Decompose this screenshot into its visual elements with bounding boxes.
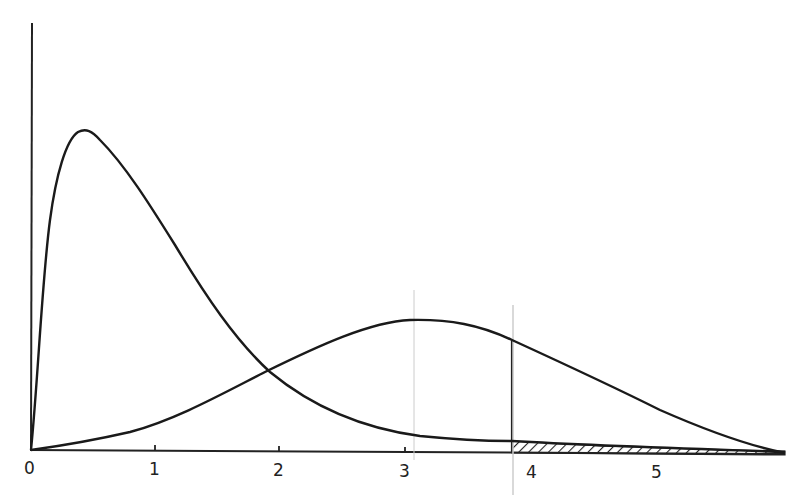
x-tick-label-5: 5	[651, 462, 662, 482]
x-tick-label-3: 3	[399, 461, 410, 481]
x-tick-label-0: 0	[24, 458, 35, 478]
series-skewed-curve	[31, 130, 785, 452]
x-tick-label-1: 1	[149, 459, 160, 479]
y-axis	[31, 23, 32, 451]
x-tick-label-2: 2	[273, 460, 284, 480]
distribution-chart: 0 1 2 3 4 5	[0, 0, 807, 504]
x-tick-label-4: 4	[526, 462, 537, 482]
